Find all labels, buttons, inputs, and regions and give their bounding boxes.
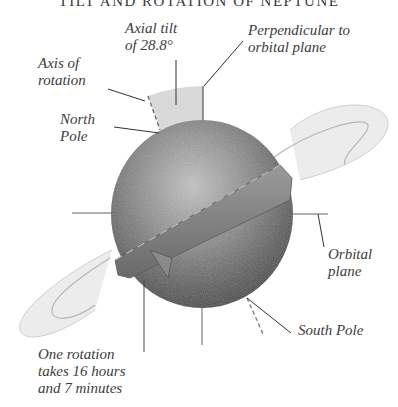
axis-of-rotation-leader xyxy=(108,89,145,101)
perpendicular-leader xyxy=(204,41,243,86)
axial-tilt-label: Axial tilt of 28.8° xyxy=(125,20,177,54)
north-pole-label: North Pole xyxy=(60,111,95,145)
perpendicular-label: Perpendicular to orbital plane xyxy=(248,22,350,56)
axis-of-rotation-label: Axis of rotation xyxy=(38,55,86,89)
south-pole-leader xyxy=(247,298,291,333)
orbital-ring-front-left xyxy=(20,250,112,337)
neptune-tilt-diagram: TILT AND ROTATION OF NEPTUNE xyxy=(0,0,398,407)
north-pole-leader xyxy=(114,127,159,133)
axis-dashed-bottom xyxy=(247,298,263,334)
orbital-plane-leader xyxy=(318,214,324,247)
rotation-period-label: One rotation takes 16 hours and 7 minute… xyxy=(38,346,126,397)
south-pole-label: South Pole xyxy=(298,322,363,339)
orbital-ring-back xyxy=(270,105,388,180)
orbital-plane-label: Orbital plane xyxy=(328,246,372,280)
